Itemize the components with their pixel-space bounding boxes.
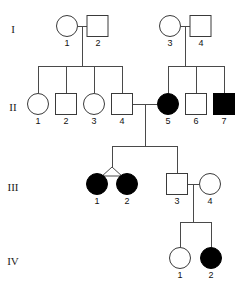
person-symbol-i1-female-unaffected[interactable] [57,16,78,37]
person-id-i1: 1 [64,38,69,48]
person-id-i4: 4 [198,38,203,48]
person-symbol-iv1-female-unaffected[interactable] [170,248,191,269]
person-symbol-iii1-female-affected[interactable] [87,174,108,195]
person-symbol-iii2-female-affected[interactable] [117,174,138,195]
person-id-iii3: 3 [174,196,179,206]
generation-label-i: I [11,23,15,35]
person-id-i3: 3 [167,38,172,48]
person-symbol-i4-male-unaffected[interactable] [190,16,211,37]
person-id-ii1: 1 [35,116,40,126]
person-id-ii3: 3 [91,116,96,126]
person-id-iii1: 1 [94,196,99,206]
person-id-iii4: 4 [207,196,212,206]
generation-label-iv: IV [7,255,19,267]
pedigree-chart: I II III IV [0,0,241,286]
person-id-ii6: 6 [193,116,198,126]
person-symbol-ii1-female-unaffected[interactable] [28,94,49,115]
generation-label-iii: III [8,181,19,193]
person-symbol-iii4-female-unaffected[interactable] [200,174,221,195]
person-id-iii2: 2 [124,196,129,206]
person-symbol-ii2-male-unaffected[interactable] [56,94,77,115]
person-symbol-ii3-female-unaffected[interactable] [84,94,105,115]
person-symbol-ii4-male-unaffected[interactable] [112,94,133,115]
person-symbol-iv2-female-affected[interactable] [201,248,222,269]
person-symbol-ii5-female-affected[interactable] [158,94,179,115]
person-id-ii7: 7 [221,116,226,126]
person-id-ii4: 4 [119,116,124,126]
person-id-ii5: 5 [165,116,170,126]
pedigree-canvas: I II III IV [0,0,241,286]
person-symbol-iii3-male-unaffected[interactable] [167,174,188,195]
person-symbol-ii7-male-affected[interactable] [214,94,235,115]
person-symbol-i2-male-unaffected[interactable] [87,16,108,37]
person-id-iv1: 1 [177,270,182,280]
person-id-i2: 2 [95,38,100,48]
generation-label-ii: II [9,101,17,113]
person-symbol-ii6-male-unaffected[interactable] [186,94,207,115]
person-id-iv2: 2 [208,270,213,280]
person-symbol-i3-female-unaffected[interactable] [160,16,181,37]
person-id-ii2: 2 [63,116,68,126]
